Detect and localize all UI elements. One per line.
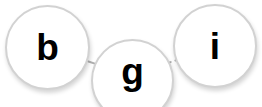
graph-node-b[interactable]: b xyxy=(5,5,90,90)
graph-node-g-label: g xyxy=(121,53,144,90)
graph-node-b-label: b xyxy=(36,29,59,66)
graph-node-i[interactable]: i xyxy=(173,4,257,88)
graph-canvas: b g i xyxy=(0,0,262,107)
graph-node-i-label: i xyxy=(210,28,220,65)
